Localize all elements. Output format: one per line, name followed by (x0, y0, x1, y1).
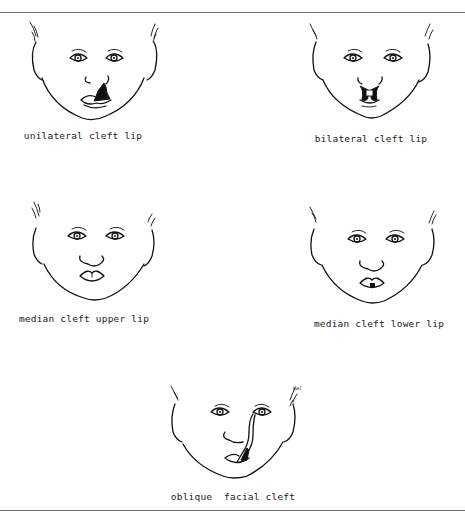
caption-oblique: oblique facial cleft (171, 491, 295, 502)
face-median-cleft-lower-lip (302, 205, 442, 310)
caption-median-upper: median cleft upper lip (19, 313, 149, 324)
caption-median-lower: median cleft lower lip (314, 318, 444, 329)
bottom-rule (0, 510, 465, 511)
face-bilateral-cleft-lip (302, 20, 437, 125)
face-median-cleft-upper-lip (22, 200, 162, 305)
top-rule (0, 12, 465, 13)
caption-unilateral: unilateral cleft lip (24, 130, 142, 141)
face-unilateral-cleft-lip (22, 20, 162, 125)
artist-signature: Hal (293, 385, 302, 391)
face-oblique-facial-cleft (163, 382, 303, 487)
caption-bilateral: bilateral cleft lip (315, 133, 427, 144)
